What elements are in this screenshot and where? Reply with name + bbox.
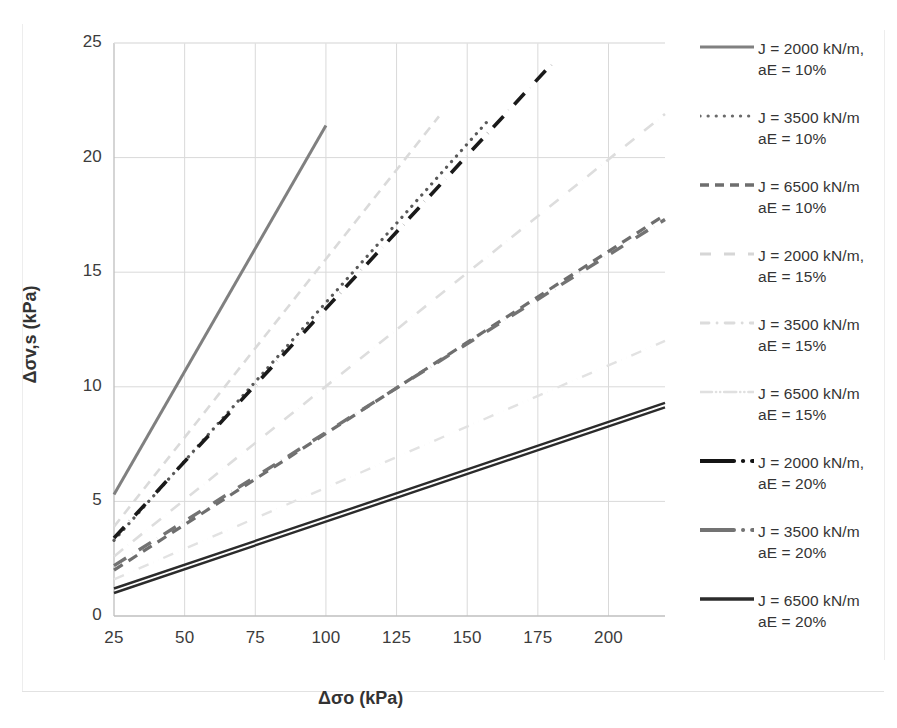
legend-entry[interactable]: J = 2000 kN/m, aE = 10%	[700, 38, 890, 86]
y-axis-tick-label: 10	[58, 376, 102, 396]
y-axis-tick-label: 25	[58, 32, 102, 52]
legend-line-icon	[700, 177, 754, 193]
legend-swatch-dashed-gray	[700, 177, 754, 193]
legend-entry-label: J = 2000 kN/m, aE = 20%	[758, 452, 864, 494]
legend-entry-label: J = 2000 kN/m, aE = 15%	[758, 245, 864, 287]
series-line	[114, 341, 665, 579]
y-axis-tick-label: 20	[58, 147, 102, 167]
legend-entry[interactable]: J = 2000 kN/m, aE = 15%	[700, 245, 890, 293]
x-axis-tick-label: 200	[578, 628, 638, 648]
legend-swatch-dashdot-gray	[700, 522, 754, 538]
legend-line-icon	[700, 39, 754, 55]
figure-bottom-rule	[22, 691, 884, 692]
y-axis-tick-label: 0	[58, 605, 102, 625]
legend-line-icon	[700, 315, 754, 331]
legend-entry[interactable]: J = 6500 kN/m aE = 10%	[700, 176, 890, 224]
legend-swatch-dashed-faint	[700, 246, 754, 262]
legend-swatch-solid-dark	[700, 591, 754, 607]
legend-swatch-solid-gray	[700, 39, 754, 55]
gridlines	[114, 43, 665, 616]
legend-entry[interactable]: J = 6500 kN/m aE = 15%	[700, 383, 890, 431]
series-line	[114, 407, 665, 593]
x-axis-title: Δσo (kPa)	[318, 688, 403, 709]
series-line	[114, 219, 665, 565]
legend-swatch-dashdot-black	[700, 453, 754, 469]
legend-line-icon	[700, 591, 754, 607]
legend-entry-label: J = 3500 kN/m aE = 15%	[758, 314, 860, 356]
legend-entry[interactable]: J = 2000 kN/m, aE = 20%	[700, 452, 890, 500]
legend-line-icon	[700, 384, 754, 400]
chart-legend: J = 2000 kN/m, aE = 10%J = 3500 kN/m aE …	[700, 38, 890, 659]
y-axis-tick-label: 15	[58, 261, 102, 281]
legend-swatch-dotted-gray	[700, 108, 754, 124]
series-line	[114, 119, 490, 541]
legend-entry-label: J = 3500 kN/m aE = 20%	[758, 521, 860, 563]
x-axis-tick-label: 150	[437, 628, 497, 648]
chart-figure: 0510152025 255075100125150175200 Δσo (kP…	[0, 0, 897, 728]
x-axis-tick-label: 100	[296, 628, 356, 648]
x-axis-tick-label: 125	[367, 628, 427, 648]
series-line	[114, 126, 326, 495]
x-axis-tick-label: 50	[155, 628, 215, 648]
axis-spines	[114, 43, 665, 616]
legend-line-icon	[700, 246, 754, 262]
legend-swatch-dashdotdot-faint	[700, 384, 754, 400]
x-axis-tick-label: 25	[84, 628, 144, 648]
y-axis-tick-label: 5	[58, 490, 102, 510]
series-line	[114, 403, 665, 589]
x-axis-tick-label: 175	[508, 628, 568, 648]
legend-entry-label: J = 3500 kN/m aE = 10%	[758, 107, 860, 149]
legend-line-icon	[700, 108, 754, 124]
legend-entry[interactable]: J = 3500 kN/m aE = 10%	[700, 107, 890, 155]
legend-line-icon	[700, 453, 754, 469]
legend-swatch-dashdot-faint	[700, 315, 754, 331]
legend-entry[interactable]: J = 3500 kN/m aE = 20%	[700, 521, 890, 569]
plot-area: 0510152025 255075100125150175200 Δσo (kP…	[18, 24, 678, 672]
x-axis-tick-label: 75	[225, 628, 285, 648]
series-layer	[114, 64, 665, 593]
legend-entry[interactable]: J = 6500 kN/m aE = 20%	[700, 590, 890, 638]
legend-entry-label: J = 6500 kN/m aE = 15%	[758, 383, 860, 425]
legend-entry-label: J = 2000 kN/m, aE = 10%	[758, 38, 864, 80]
legend-entry[interactable]: J = 3500 kN/m aE = 15%	[700, 314, 890, 362]
plot-canvas	[18, 24, 678, 672]
y-axis-title: Δσv,s (kPa)	[20, 286, 41, 384]
legend-entry-label: J = 6500 kN/m aE = 10%	[758, 176, 860, 218]
legend-line-icon	[700, 522, 754, 538]
legend-entry-label: J = 6500 kN/m aE = 20%	[758, 590, 860, 632]
